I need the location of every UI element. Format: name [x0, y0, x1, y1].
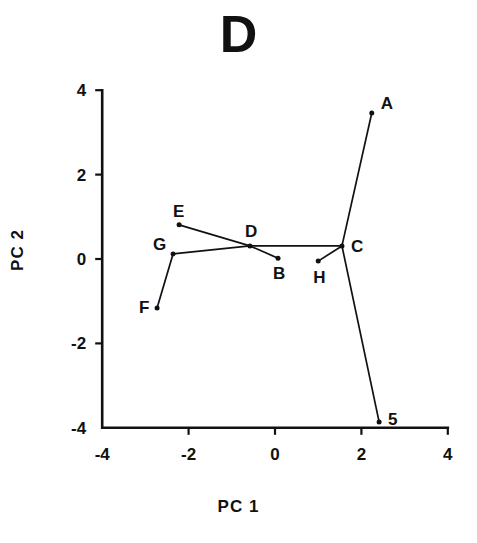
data-point[interactable] [155, 305, 160, 310]
x-tick-label: 0 [270, 445, 279, 464]
mst-edge [173, 246, 250, 254]
mst-edge [157, 254, 173, 308]
data-point-label: C [351, 237, 363, 256]
data-point-label: D [245, 222, 257, 241]
y-tick-label: 2 [77, 166, 86, 185]
figure-panel: D -4-2024-4-2024 ABCDEFGH5 PC 1 PC 2 [0, 0, 477, 543]
data-point-label: B [273, 264, 285, 283]
data-point-label: H [313, 268, 325, 287]
data-point[interactable] [276, 256, 281, 261]
x-tick-label: 4 [443, 445, 453, 464]
x-tick-label: -4 [95, 445, 111, 464]
axes-layer: -4-2024-4-2024 [71, 81, 453, 464]
x-tick-label: 2 [357, 445, 366, 464]
y-tick-label: -2 [71, 334, 86, 353]
data-point-label: G [153, 235, 166, 254]
mst-edge [342, 246, 379, 422]
x-tick-label: -2 [181, 445, 196, 464]
data-point-label: A [381, 94, 393, 113]
data-point-label: F [139, 298, 149, 317]
y-tick-label: 4 [77, 81, 87, 100]
data-points-layer: ABCDEFGH5 [139, 94, 398, 429]
data-point-label: E [173, 202, 184, 221]
data-point[interactable] [369, 110, 374, 115]
mst-edges-layer [157, 113, 379, 422]
x-axis-label: PC 1 [0, 497, 477, 517]
mst-edge [250, 246, 278, 258]
data-point[interactable] [171, 251, 176, 256]
data-point[interactable] [316, 259, 321, 264]
data-point[interactable] [247, 243, 252, 248]
data-point[interactable] [377, 419, 382, 424]
mst-edge [342, 113, 372, 246]
data-point-label: 5 [388, 410, 397, 429]
scatter-plot-canvas: -4-2024-4-2024 ABCDEFGH5 [0, 0, 477, 543]
data-point[interactable] [339, 243, 344, 248]
mst-edge [179, 225, 250, 246]
y-tick-label: -4 [71, 419, 87, 438]
y-axis-label: PC 2 [8, 210, 28, 290]
data-point[interactable] [177, 222, 182, 227]
mst-edge [318, 246, 342, 261]
y-tick-label: 0 [77, 250, 86, 269]
